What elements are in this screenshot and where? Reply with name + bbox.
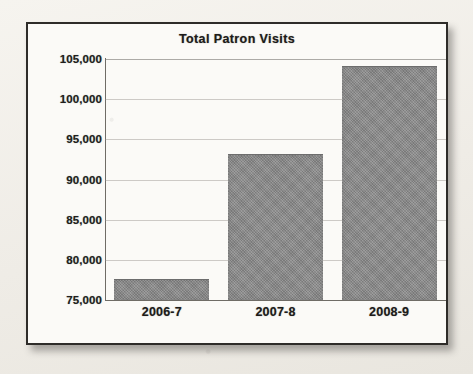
- x-axis-tick-label: 2007-8: [219, 305, 333, 319]
- bar-2006-7[interactable]: [114, 279, 209, 300]
- y-axis-tick-label: 105,000: [30, 53, 102, 65]
- x-axis-line: [105, 300, 446, 301]
- y-axis-tick-label: 90,000: [30, 174, 102, 186]
- y-axis-tick-label: 80,000: [30, 254, 102, 266]
- gridline: [105, 59, 446, 60]
- chart-canvas: Total Patron Visits 75,00080,00085,00090…: [28, 24, 446, 343]
- plot-area: [105, 59, 446, 300]
- bar-2007-8[interactable]: [228, 154, 323, 300]
- y-axis-tick-label: 85,000: [30, 214, 102, 226]
- x-axis-tick-label: 2008-9: [332, 305, 446, 319]
- y-axis-tick-label: 95,000: [30, 133, 102, 145]
- chart-title: Total Patron Visits: [28, 32, 446, 46]
- y-axis-labels: 75,00080,00085,00090,00095,000100,000105…: [28, 59, 102, 300]
- bar-2008-9[interactable]: [342, 66, 437, 300]
- x-axis-tick-label: 2006-7: [105, 305, 219, 319]
- chart-frame: Total Patron Visits 75,00080,00085,00090…: [26, 22, 448, 345]
- x-axis-labels: 2006-72007-82008-9: [105, 305, 446, 331]
- y-axis-tick-label: 100,000: [30, 93, 102, 105]
- y-axis-tick-label: 75,000: [30, 294, 102, 306]
